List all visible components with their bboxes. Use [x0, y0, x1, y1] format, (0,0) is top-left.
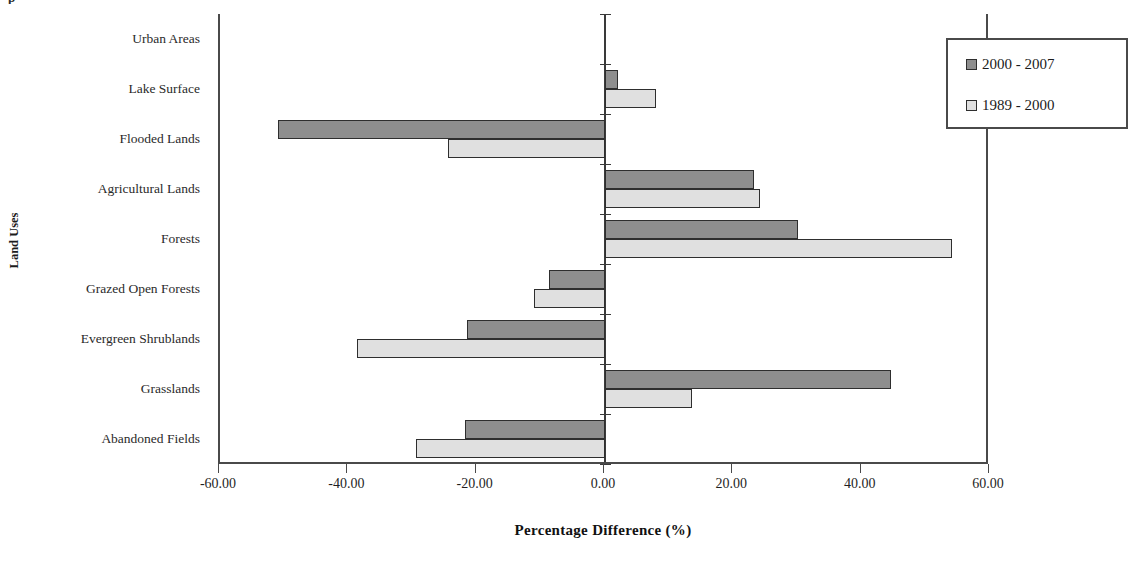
legend: 2000 - 2007 1989 - 2000 [946, 38, 1128, 129]
y-axis-label: Flooded Lands [119, 132, 200, 146]
bar-group [220, 64, 986, 114]
bar-group [220, 214, 986, 264]
x-axis-tick [218, 464, 219, 473]
y-axis-label: Urban Areas [132, 32, 200, 46]
bar [416, 439, 605, 458]
bar [605, 89, 656, 108]
bar-group [220, 364, 986, 414]
x-axis-tick [731, 464, 732, 473]
legend-item-label: 1989 - 2000 [982, 97, 1055, 114]
x-axis-label: -40.00 [328, 476, 364, 492]
legend-item: 2000 - 2007 [966, 56, 1055, 73]
bar-group [220, 314, 986, 364]
x-axis-ticks [218, 464, 988, 476]
bar [605, 220, 798, 239]
bar [605, 389, 692, 408]
x-axis-tick [346, 464, 347, 473]
bar-group [220, 14, 986, 64]
y-axis-tick [600, 14, 611, 15]
bar [549, 270, 605, 289]
y-axis-tick-labels: Urban AreasLake SurfaceFlooded LandsAgri… [0, 14, 210, 464]
y-axis-label: Abandoned Fields [101, 432, 200, 446]
x-axis-tick [988, 464, 989, 473]
bar [467, 320, 605, 339]
bar [605, 70, 618, 89]
x-axis-label: -60.00 [200, 476, 236, 492]
y-axis-label: Evergreen Shrublands [81, 332, 200, 346]
bar [605, 370, 891, 389]
bar-group [220, 164, 986, 214]
y-axis-label: Grasslands [141, 382, 200, 396]
bar [448, 139, 605, 158]
bar-rows [220, 14, 986, 462]
x-axis-tick [475, 464, 476, 473]
x-axis-tick [603, 464, 604, 473]
bar-group [220, 264, 986, 314]
bar [278, 120, 605, 139]
bar [605, 239, 952, 258]
bar-group [220, 114, 986, 164]
y-axis-label: Forests [161, 232, 200, 246]
bar [465, 420, 605, 439]
x-axis-label: 0.00 [591, 476, 616, 492]
bar [605, 189, 760, 208]
bar [534, 289, 605, 308]
x-axis-tick-labels: -60.00-40.00-20.000.0020.0040.0060.00 [218, 476, 988, 500]
legend-swatch-icon [966, 100, 977, 111]
y-axis-label: Agricultural Lands [98, 182, 200, 196]
y-axis-label: Lake Surface [128, 82, 200, 96]
legend-item: 1989 - 2000 [966, 97, 1055, 114]
bar [357, 339, 605, 358]
y-axis-label: Grazed Open Forests [86, 282, 200, 296]
clipped-title: p [8, 0, 608, 4]
bar-group [220, 414, 986, 464]
plot-area: 2000 - 2007 1989 - 2000 [218, 14, 988, 464]
x-axis-label: -20.00 [457, 476, 493, 492]
x-axis-label: 60.00 [972, 476, 1004, 492]
x-axis-label: 40.00 [844, 476, 876, 492]
x-axis-title: Percentage Difference (%) [218, 522, 988, 539]
x-axis-tick [860, 464, 861, 473]
x-axis-label: 20.00 [716, 476, 748, 492]
legend-item-label: 2000 - 2007 [982, 56, 1055, 73]
legend-swatch-icon [966, 59, 977, 70]
bar [605, 170, 754, 189]
